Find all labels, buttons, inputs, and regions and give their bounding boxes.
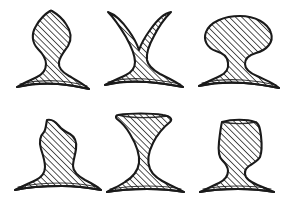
hatched-shapes-illustration (0, 0, 285, 200)
illustration-canvas (0, 0, 285, 200)
